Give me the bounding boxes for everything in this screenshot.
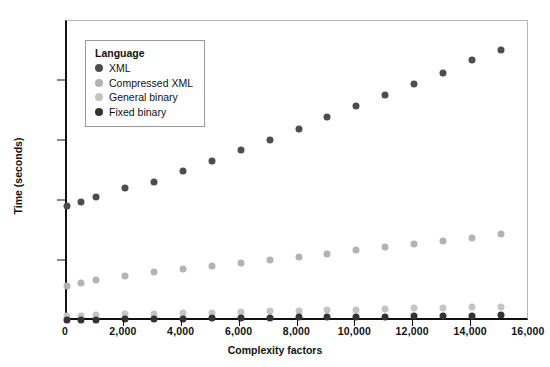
legend-entry: XML <box>95 61 193 76</box>
y-tick-mark <box>57 260 65 261</box>
legend-title: Language <box>95 47 193 59</box>
data-point <box>64 316 71 323</box>
data-point <box>469 312 476 319</box>
data-point <box>78 279 85 286</box>
data-point <box>237 147 244 154</box>
data-point <box>78 316 85 323</box>
x-tick-mark <box>412 320 413 326</box>
x-tick-mark <box>297 320 298 326</box>
data-point <box>150 315 157 322</box>
data-point <box>382 243 389 250</box>
data-point <box>64 202 71 209</box>
data-point <box>150 269 157 276</box>
data-point <box>208 263 215 270</box>
data-point <box>324 114 331 121</box>
data-point <box>64 282 71 289</box>
legend-marker-icon <box>95 79 103 87</box>
data-point <box>411 240 418 247</box>
legend-label: XML <box>109 62 131 74</box>
legend-label: General binary <box>109 91 178 103</box>
data-point <box>382 313 389 320</box>
legend-marker-icon <box>95 108 103 116</box>
legend-entry: Fixed binary <box>95 105 193 120</box>
data-point <box>295 126 302 133</box>
data-point <box>324 250 331 257</box>
legend-label: Compressed XML <box>109 77 193 89</box>
legend-entry: Compressed XML <box>95 76 193 91</box>
data-point <box>411 313 418 320</box>
data-point <box>382 306 389 313</box>
data-point <box>324 314 331 321</box>
data-point <box>469 304 476 311</box>
data-point <box>382 92 389 99</box>
y-tick-mark <box>57 140 65 141</box>
y-tick-mark <box>57 80 65 81</box>
data-point <box>411 81 418 88</box>
data-point <box>208 315 215 322</box>
data-point <box>498 231 505 238</box>
data-point <box>78 198 85 205</box>
data-point <box>266 256 273 263</box>
data-point <box>469 234 476 241</box>
legend-entry: General binary <box>95 90 193 105</box>
data-point <box>92 193 99 200</box>
data-point <box>440 69 447 76</box>
data-point <box>353 102 360 109</box>
data-point <box>266 314 273 321</box>
legend-entries: XMLCompressed XMLGeneral binaryFixed bin… <box>95 61 193 119</box>
x-axis-label: Complexity factors <box>0 344 550 356</box>
data-point <box>498 303 505 310</box>
data-point <box>498 312 505 319</box>
chart-legend: Language XMLCompressed XMLGeneral binary… <box>85 40 205 127</box>
x-tick-mark <box>123 320 124 326</box>
data-point <box>353 306 360 313</box>
data-point <box>179 266 186 273</box>
x-tick-mark <box>470 320 471 326</box>
data-point <box>121 273 128 280</box>
data-point <box>92 276 99 283</box>
data-point <box>237 260 244 267</box>
x-tick-label: 16,000 <box>493 325 550 337</box>
legend-marker-icon <box>95 93 103 101</box>
y-tick-mark <box>57 200 65 201</box>
x-tick-mark <box>239 320 240 326</box>
data-point <box>295 253 302 260</box>
data-point <box>440 237 447 244</box>
data-point <box>121 184 128 191</box>
y-axis-label: Time (seconds) <box>12 96 24 256</box>
data-point <box>92 316 99 323</box>
data-point <box>179 168 186 175</box>
data-point <box>411 305 418 312</box>
data-point <box>440 304 447 311</box>
data-point <box>353 246 360 253</box>
x-tick-mark <box>354 320 355 326</box>
data-point <box>266 136 273 143</box>
legend-label: Fixed binary <box>109 106 166 118</box>
legend-marker-icon <box>95 64 103 72</box>
data-point <box>208 157 215 164</box>
chart-figure: Time (seconds) 0.00.20.40.60.81.0 02,000… <box>0 0 550 367</box>
x-tick-mark <box>181 320 182 326</box>
data-point <box>469 57 476 64</box>
data-point <box>498 46 505 53</box>
data-point <box>150 178 157 185</box>
data-point <box>440 312 447 319</box>
